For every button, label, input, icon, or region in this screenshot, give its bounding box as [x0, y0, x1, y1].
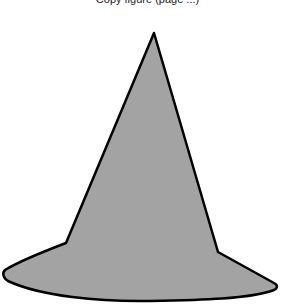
witch-hat-icon [3, 33, 277, 301]
witch-hat-figure [0, 0, 295, 304]
